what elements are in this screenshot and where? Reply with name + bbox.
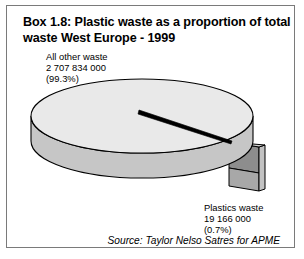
callout-label-plastics-waste: Plastics waste 19 166 000 (0.7%) [204,202,263,236]
source-attribution: Source: Taylor Nelso Satres for APME [7,235,280,246]
pie-slice-all-other-waste[interactable] [31,79,253,178]
callout-label-all-other-waste: All other waste 2 707 834 000 (99.3%) [46,51,108,85]
pie-top-face [31,79,253,153]
box-frame: Box 1.8: Plastic waste as a proportion o… [6,5,295,248]
slice-plastics-outer-face [259,145,265,191]
